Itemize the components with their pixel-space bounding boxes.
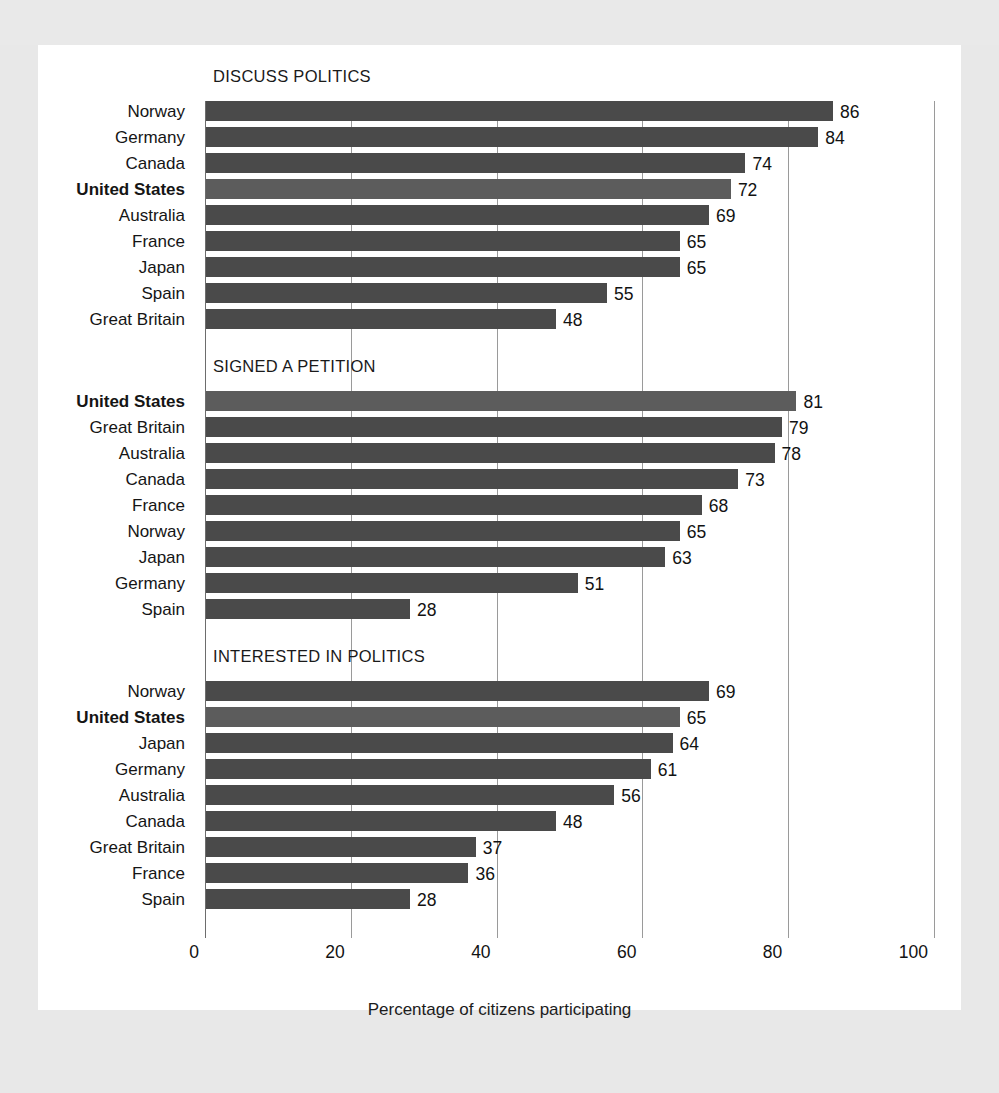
bar-value-label: 78 <box>782 444 801 464</box>
category-label: Germany <box>38 760 195 780</box>
bar <box>206 889 410 909</box>
category-label: Spain <box>38 890 195 910</box>
category-label: France <box>38 496 195 516</box>
bar-value-label: 36 <box>475 864 494 884</box>
bar <box>206 521 680 541</box>
bar <box>206 127 818 147</box>
category-label: Japan <box>38 734 195 754</box>
bar-value-label: 65 <box>687 232 706 252</box>
x-tick-label-80: 80 <box>728 942 782 963</box>
bar-value-label: 55 <box>614 284 633 304</box>
group-title-2: SIGNED A PETITION <box>213 357 376 376</box>
category-label: United States <box>38 392 195 412</box>
bar <box>206 417 782 437</box>
bar <box>206 495 702 515</box>
bar-value-label: 74 <box>752 154 771 174</box>
bar-value-label: 69 <box>716 682 735 702</box>
gridline-80 <box>788 101 789 938</box>
category-label: Canada <box>38 812 195 832</box>
bar <box>206 573 578 593</box>
bar-value-label: 61 <box>658 760 677 780</box>
bar-value-label: 48 <box>563 310 582 330</box>
category-label: Japan <box>38 548 195 568</box>
bar-value-label: 79 <box>789 418 808 438</box>
category-label: Norway <box>38 522 195 542</box>
bar <box>206 231 680 251</box>
bar <box>206 153 745 173</box>
bar <box>206 707 680 727</box>
bar-value-label: 65 <box>687 522 706 542</box>
bar-value-label: 69 <box>716 206 735 226</box>
bar <box>206 681 709 701</box>
bar-value-label: 37 <box>483 838 502 858</box>
bar <box>206 283 607 303</box>
category-label: Norway <box>38 102 195 122</box>
category-label: United States <box>38 180 195 200</box>
figure-card: 020406080100DISCUSS POLITICSNorway86Germ… <box>38 45 961 1010</box>
page-top-ghost-band <box>0 0 999 45</box>
gridline-60 <box>642 101 643 938</box>
bar-value-label: 48 <box>563 812 582 832</box>
bar <box>206 599 410 619</box>
bar <box>206 785 614 805</box>
bar <box>206 205 709 225</box>
category-label: Norway <box>38 682 195 702</box>
bar <box>206 837 476 857</box>
bar <box>206 391 796 411</box>
bar-value-label: 28 <box>417 600 436 620</box>
category-label: Australia <box>38 206 195 226</box>
bar-value-label: 73 <box>745 470 764 490</box>
category-label: Germany <box>38 128 195 148</box>
bar <box>206 759 651 779</box>
bar <box>206 443 775 463</box>
x-tick-label-0: 0 <box>145 942 199 963</box>
bar <box>206 863 468 883</box>
bar-value-label: 64 <box>680 734 699 754</box>
bar <box>206 257 680 277</box>
bar <box>206 733 673 753</box>
category-label: Great Britain <box>38 418 195 438</box>
group-title-1: DISCUSS POLITICS <box>213 67 371 86</box>
bar-value-label: 63 <box>672 548 691 568</box>
category-label: Spain <box>38 284 195 304</box>
category-label: Great Britain <box>38 838 195 858</box>
x-tick-label-60: 60 <box>582 942 636 963</box>
bar-value-label: 81 <box>803 392 822 412</box>
category-label: Germany <box>38 574 195 594</box>
category-label: France <box>38 232 195 252</box>
bar-value-label: 84 <box>825 128 844 148</box>
category-label: Australia <box>38 444 195 464</box>
bar <box>206 811 556 831</box>
bar <box>206 309 556 329</box>
category-label: United States <box>38 708 195 728</box>
bar-chart-plot: 020406080100DISCUSS POLITICSNorway86Germ… <box>38 45 961 1010</box>
group-title-3: INTERESTED IN POLITICS <box>213 647 425 666</box>
category-label: Great Britain <box>38 310 195 330</box>
x-axis-title: Percentage of citizens participating <box>38 1000 961 1020</box>
category-label: France <box>38 864 195 884</box>
bar-value-label: 68 <box>709 496 728 516</box>
x-tick-label-100: 100 <box>874 942 928 963</box>
bar-value-label: 56 <box>621 786 640 806</box>
category-label: Spain <box>38 600 195 620</box>
bar-value-label: 51 <box>585 574 604 594</box>
bar <box>206 547 665 567</box>
x-tick-label-20: 20 <box>291 942 345 963</box>
bar-value-label: 65 <box>687 708 706 728</box>
bar <box>206 179 731 199</box>
category-label: Canada <box>38 470 195 490</box>
bar-value-label: 86 <box>840 102 859 122</box>
category-label: Canada <box>38 154 195 174</box>
bar-value-label: 72 <box>738 180 757 200</box>
bar <box>206 469 738 489</box>
bar-value-label: 65 <box>687 258 706 278</box>
category-label: Australia <box>38 786 195 806</box>
bar-value-label: 28 <box>417 890 436 910</box>
bar <box>206 101 833 121</box>
category-label: Japan <box>38 258 195 278</box>
x-tick-label-40: 40 <box>437 942 491 963</box>
gridline-100 <box>934 101 935 938</box>
